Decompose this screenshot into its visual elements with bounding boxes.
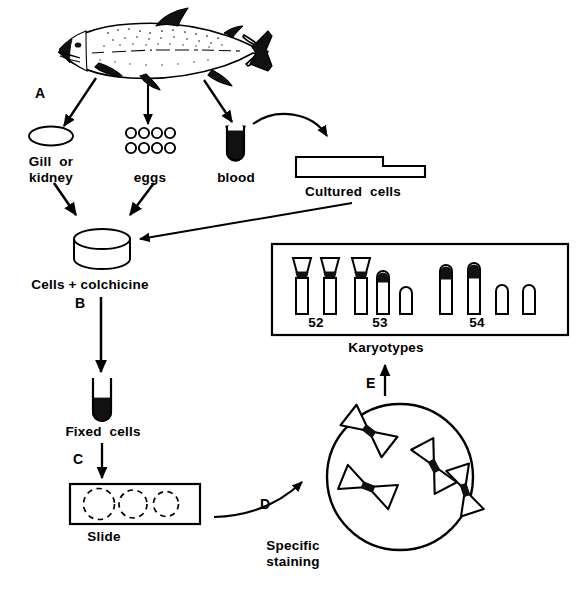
gill-or-kidney-icon [29, 127, 73, 146]
arrow-fish-to-blood [204, 80, 232, 122]
cultured-cells-flask-icon [296, 157, 425, 177]
step-label-b: B [75, 296, 85, 312]
arrow-blood-to-cultured-cells [253, 114, 327, 136]
step-label-c: C [73, 452, 83, 468]
chromosome-telocentric [496, 285, 508, 314]
cells-plus-colchicine-label: Cells + colchicine [31, 277, 148, 292]
specific-staining-label-line1: Specific [266, 538, 319, 553]
eggs-icon [126, 128, 175, 153]
step-label-a: A [35, 86, 45, 102]
arrow-fish-to-gill [64, 78, 96, 126]
arrow-slide-to-metaphase [214, 482, 302, 517]
karyotype-group-label-52: 52 [308, 315, 323, 330]
chromosome-metacentric [293, 258, 311, 314]
chromosome-telocentric [400, 287, 412, 314]
fixed-cells-tube-icon [93, 378, 111, 421]
blood-tube-icon [226, 126, 246, 161]
figure-canvas: A Gill or kidney eggs blood Cultured cel… [0, 0, 577, 591]
karyotype-group-label-53: 53 [372, 315, 387, 330]
chromosome-acrocentric [377, 271, 389, 314]
workflow-diagram [0, 0, 577, 591]
karyotype-group-label-54: 54 [469, 315, 484, 330]
chromosome-acrocentric [468, 263, 480, 314]
cultured-cells-label: Cultured cells [305, 184, 401, 199]
karyotypes-label: Karyotypes [348, 340, 424, 355]
chromosome-metacentric [321, 258, 339, 314]
eggs-label: eggs [134, 170, 166, 185]
slide-icon [70, 484, 200, 524]
arrow-cultured-to-dish [140, 203, 352, 239]
gill-or-kidney-label-line1: Gill or [29, 154, 73, 169]
gill-or-kidney-label-line2: kidney [29, 170, 73, 185]
specific-staining-label-line2: staining [266, 554, 319, 569]
arrow-gill-to-dish [54, 183, 76, 215]
chromosome-metacentric [352, 258, 370, 314]
slide-label: Slide [87, 529, 120, 544]
blood-label: blood [217, 170, 255, 185]
step-label-d: D [260, 497, 270, 513]
fixed-cells-label: Fixed cells [65, 424, 140, 439]
petri-dish-icon [74, 229, 130, 269]
step-label-e: E [366, 376, 376, 392]
chromosome-telocentric [523, 285, 535, 314]
fish-illustration [58, 8, 272, 90]
metaphase-cell-icon [327, 404, 484, 550]
chromosome-acrocentric [440, 265, 452, 314]
arrow-eggs-to-dish [130, 183, 154, 215]
